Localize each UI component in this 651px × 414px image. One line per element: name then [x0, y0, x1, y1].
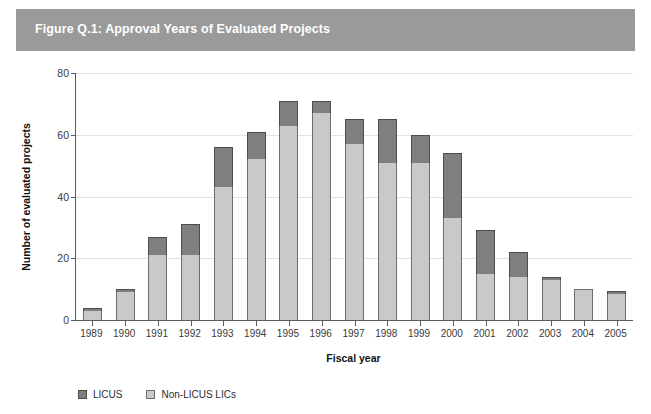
- x-axis-tick-mark: [486, 321, 487, 326]
- x-axis-tick-label: 1989: [75, 328, 108, 339]
- bar-segment-licus: [509, 252, 528, 277]
- bar-segment-non-licus: [247, 159, 266, 320]
- bar-slot: [404, 73, 437, 320]
- bar-slot: [109, 73, 142, 320]
- y-axis-title-text: Number of evaluated projects: [20, 123, 32, 271]
- x-axis-tick-label: 1998: [370, 328, 403, 339]
- legend-item[interactable]: Non-LICUS LICs: [146, 389, 235, 400]
- bar-segment-non-licus: [509, 277, 528, 320]
- bar-slot: [76, 73, 109, 320]
- bar-segment-non-licus: [214, 187, 233, 320]
- bar-series-group: [76, 73, 633, 320]
- chart-legend: LICUSNon-LICUS LICs: [78, 389, 236, 400]
- stacked-bar[interactable]: [345, 119, 364, 320]
- x-axis-tick-label: 2000: [435, 328, 468, 339]
- bar-slot: [567, 73, 600, 320]
- legend-item[interactable]: LICUS: [78, 389, 122, 400]
- bar-slot: [436, 73, 469, 320]
- bar-segment-non-licus: [345, 144, 364, 320]
- bar-segment-non-licus: [181, 255, 200, 320]
- stacked-bar[interactable]: [607, 291, 626, 320]
- figure-title: Figure Q.1: Approval Years of Evaluated …: [35, 22, 330, 36]
- stacked-bar[interactable]: [181, 224, 200, 320]
- y-axis-tick-mark: [71, 320, 76, 321]
- bar-segment-non-licus: [411, 163, 430, 320]
- bar-slot: [371, 73, 404, 320]
- bar-segment-non-licus: [83, 311, 102, 320]
- bar-slot: [502, 73, 535, 320]
- x-axis-tick-label: 2004: [566, 328, 599, 339]
- bar-segment-licus: [214, 147, 233, 187]
- bar-segment-licus: [411, 135, 430, 163]
- y-axis-tick-label: 40: [57, 191, 69, 203]
- x-axis-tick-label: 1997: [337, 328, 370, 339]
- x-axis-title: Fiscal year: [75, 352, 632, 364]
- bar-slot: [305, 73, 338, 320]
- x-axis-tick-mark: [223, 321, 224, 326]
- stacked-bar[interactable]: [312, 101, 331, 320]
- stacked-bar[interactable]: [443, 153, 462, 320]
- stacked-bar[interactable]: [148, 237, 167, 320]
- stacked-bar[interactable]: [542, 277, 561, 320]
- bar-segment-licus: [181, 224, 200, 255]
- bar-segment-non-licus: [378, 163, 397, 320]
- stacked-bar[interactable]: [83, 308, 102, 320]
- bar-segment-non-licus: [443, 218, 462, 320]
- y-axis-tick-label: 80: [57, 67, 69, 79]
- legend-swatch-light: [146, 390, 155, 399]
- x-axis-tick-label: 1991: [141, 328, 174, 339]
- x-axis-tick-label: 1999: [403, 328, 436, 339]
- bar-slot: [535, 73, 568, 320]
- x-axis-tick-mark: [584, 321, 585, 326]
- x-axis-tick-labels: 1989199019911992199319941995199619971998…: [75, 328, 632, 339]
- x-axis-tick-mark: [420, 321, 421, 326]
- stacked-bar[interactable]: [214, 147, 233, 320]
- legend-label: Non-LICUS LICs: [161, 389, 235, 400]
- stacked-bar[interactable]: [476, 230, 495, 320]
- bar-slot: [240, 73, 273, 320]
- x-axis-tick-mark: [551, 321, 552, 326]
- y-axis-tick-label: 0: [63, 314, 69, 326]
- bar-segment-non-licus: [607, 294, 626, 320]
- bar-slot: [142, 73, 175, 320]
- x-axis-tick-mark: [518, 321, 519, 326]
- stacked-bar[interactable]: [116, 289, 135, 320]
- bar-slot: [273, 73, 306, 320]
- bar-segment-licus: [476, 230, 495, 273]
- stacked-bar[interactable]: [411, 135, 430, 320]
- bar-segment-licus: [345, 119, 364, 144]
- bar-segment-non-licus: [574, 289, 593, 320]
- stacked-bar[interactable]: [574, 289, 593, 320]
- plot-area: 020406080: [75, 73, 633, 321]
- x-axis-tick-mark: [387, 321, 388, 326]
- x-axis-tick-mark: [322, 321, 323, 326]
- x-axis-tick-mark: [191, 321, 192, 326]
- x-axis-tick-mark: [289, 321, 290, 326]
- bar-slot: [338, 73, 371, 320]
- bar-segment-licus: [247, 132, 266, 160]
- x-axis-tick-mark: [256, 321, 257, 326]
- bar-slot: [207, 73, 240, 320]
- bar-segment-licus: [148, 237, 167, 256]
- legend-label: LICUS: [93, 389, 122, 400]
- bar-segment-licus: [378, 119, 397, 162]
- bar-slot: [600, 73, 633, 320]
- stacked-bar[interactable]: [279, 101, 298, 320]
- x-axis-tick-label: 1994: [239, 328, 272, 339]
- bar-segment-licus: [312, 101, 331, 113]
- stacked-bar[interactable]: [509, 252, 528, 320]
- bar-segment-non-licus: [542, 280, 561, 320]
- bar-slot: [469, 73, 502, 320]
- stacked-bar[interactable]: [378, 119, 397, 320]
- bar-segment-non-licus: [312, 113, 331, 320]
- stacked-bar[interactable]: [247, 132, 266, 320]
- x-axis-tick-mark: [617, 321, 618, 326]
- x-axis-tick-label: 1992: [173, 328, 206, 339]
- bar-segment-non-licus: [476, 274, 495, 320]
- bar-slot: [174, 73, 207, 320]
- y-axis-tick-label: 60: [57, 129, 69, 141]
- x-axis-tick-label: 1993: [206, 328, 239, 339]
- x-axis-tick-label: 2003: [534, 328, 567, 339]
- figure-container: Figure Q.1: Approval Years of Evaluated …: [0, 0, 651, 414]
- x-axis-tick-label: 2002: [501, 328, 534, 339]
